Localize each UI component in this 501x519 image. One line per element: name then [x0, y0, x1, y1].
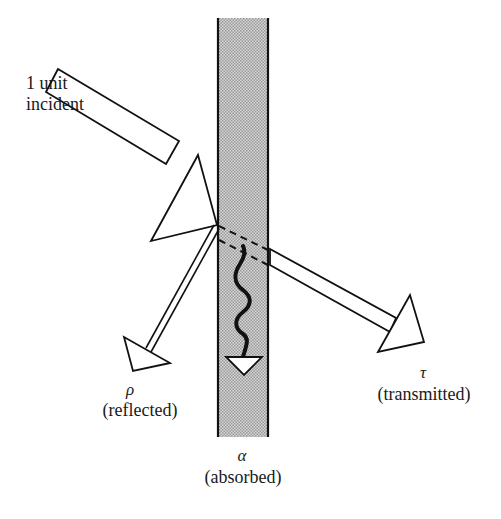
- diagram-canvas: [0, 0, 501, 519]
- absorbed-label: (absorbed): [205, 467, 282, 487]
- incident-label-line1: 1 unit: [26, 73, 68, 93]
- reflected-arrow-icon: [124, 225, 219, 371]
- transmitted-label: (transmitted): [378, 384, 471, 404]
- reflected-symbol: ρ: [126, 380, 134, 400]
- reflected-label: (reflected): [103, 400, 178, 420]
- transmitted-symbol: τ: [420, 363, 426, 383]
- absorbed-symbol: α: [238, 446, 247, 466]
- transmitted-arrow-icon: [270, 249, 424, 352]
- incident-label-line2: incident: [26, 94, 84, 114]
